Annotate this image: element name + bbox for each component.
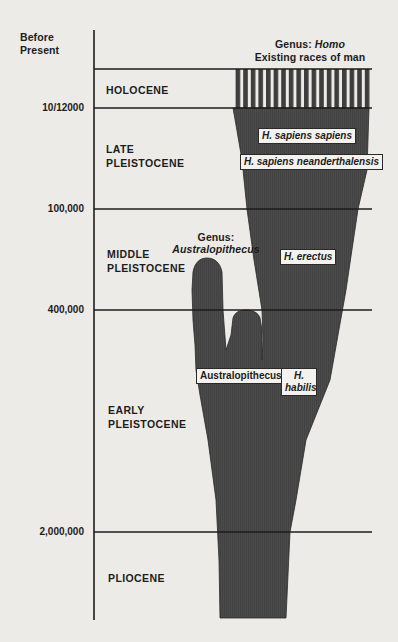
axis-title-line2: Present — [20, 44, 59, 57]
axis-title-line1: Before — [20, 31, 59, 44]
epoch-middle-line2: PLEISTOCENE — [107, 261, 185, 275]
label-h-sapiens-neanderthalensis: H. sapiens neanderthalensis — [240, 154, 383, 170]
existing-races-band — [233, 69, 370, 108]
epoch-pliocene: PLIOCENE — [108, 571, 165, 585]
epoch-pliocene-label: PLIOCENE — [108, 571, 165, 585]
genus-australopithecus-header: Genus: Australopithecus — [164, 231, 268, 255]
epoch-late-line2: PLEISTOCENE — [106, 156, 184, 170]
label-h-habilis-line2: habilis — [285, 382, 313, 394]
genus-homo-header: Genus: Homo Existing races of man — [250, 38, 370, 64]
epoch-early-line1: EARLY — [108, 403, 186, 417]
epoch-early-line2: PLEISTOCENE — [108, 417, 186, 431]
tick-100000: 100,000 — [4, 203, 84, 214]
axis-title: Before Present — [20, 31, 59, 57]
epoch-early-pleistocene: EARLY PLEISTOCENE — [108, 403, 186, 431]
genus-homo-prefix: Genus: — [275, 38, 315, 50]
genus-homo-subtitle: Existing races of man — [250, 51, 370, 64]
genus-australopithecus-prefix: Genus: — [164, 231, 268, 243]
evolution-diagram: Before Present 10/12000 100,000 400,000 … — [0, 0, 398, 642]
genus-homo-name: Homo — [315, 38, 345, 50]
label-australopithecus: Australopithecus — [196, 368, 286, 384]
label-h-habilis: H. habilis — [281, 368, 317, 396]
epoch-holocene: HOLOCENE — [106, 83, 169, 97]
genus-homo-title: Genus: Homo — [250, 38, 370, 51]
label-h-sapiens-sapiens: H. sapiens sapiens — [258, 128, 356, 144]
epoch-late-line1: LATE — [106, 142, 184, 156]
label-h-erectus: H. erectus — [280, 249, 336, 265]
tick-400000: 400,000 — [4, 304, 84, 315]
tick-10-12000: 10/12000 — [4, 102, 84, 113]
genus-australopithecus-name: Australopithecus — [172, 243, 259, 255]
label-h-habilis-line1: H. — [285, 370, 313, 382]
epoch-holocene-label: HOLOCENE — [106, 83, 169, 97]
tick-2000000: 2,000,000 — [4, 526, 84, 537]
diagram-graphics — [0, 0, 398, 642]
homo-lineage-shape — [192, 108, 369, 618]
epoch-late-pleistocene: LATE PLEISTOCENE — [106, 142, 184, 170]
